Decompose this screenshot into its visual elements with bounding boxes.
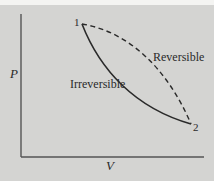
irreversible-label: Irreversible — [70, 78, 125, 90]
y-axis-label: P — [10, 67, 18, 80]
reversible-label: Reversible — [153, 51, 204, 63]
point-2-label: 2 — [193, 122, 199, 133]
x-axis-label: V — [106, 159, 114, 172]
reversible-curve — [82, 24, 191, 124]
point-1-label: 1 — [74, 17, 80, 28]
irreversible-curve — [82, 24, 191, 124]
pv-diagram: P V 1 2 Reversible Irreversible — [0, 0, 214, 181]
